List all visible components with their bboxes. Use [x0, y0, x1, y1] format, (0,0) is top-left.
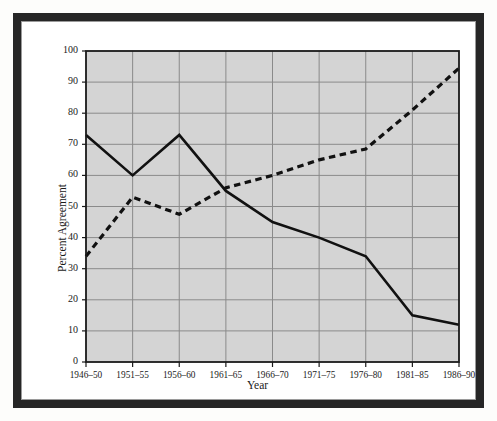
chart-figure: Percent Agreement Year 01020304050607080…: [22, 22, 493, 417]
chart-page: Percent Agreement Year 01020304050607080…: [0, 0, 497, 421]
frame-inner-border: Percent Agreement Year 01020304050607080…: [21, 21, 476, 400]
picture-frame: Percent Agreement Year 01020304050607080…: [13, 13, 484, 408]
plot-canvas: [22, 22, 493, 417]
